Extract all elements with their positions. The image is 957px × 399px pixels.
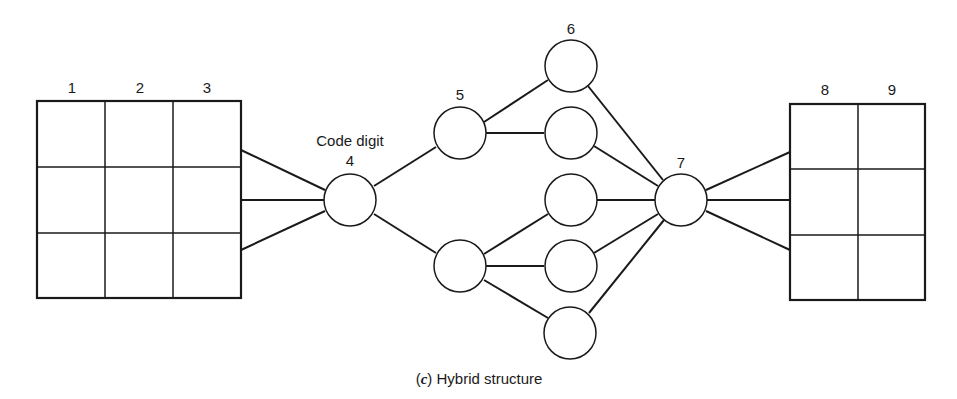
node-4-label: 4 bbox=[346, 152, 354, 169]
left-grid-label-3: 3 bbox=[203, 79, 211, 96]
node-lower-layer-2 bbox=[434, 240, 486, 292]
left-grid-label-1: 1 bbox=[68, 79, 76, 96]
caption-suffix: ) Hybrid structure bbox=[427, 370, 542, 387]
edges-lower-node-to-column bbox=[484, 214, 548, 318]
node-column-5 bbox=[544, 307, 596, 359]
node-4 bbox=[324, 174, 376, 226]
edges-left-grid-to-node-4 bbox=[241, 150, 325, 250]
node-column-4 bbox=[545, 240, 597, 292]
hybrid-structure-diagram: 1 2 3 Code digit 4 5 6 7 8 9 (c) Hybrid … bbox=[0, 0, 957, 399]
node-6 bbox=[545, 40, 597, 92]
edges-column-to-node-7 bbox=[588, 86, 664, 313]
code-digit-label: Code digit bbox=[316, 132, 384, 149]
node-column-2 bbox=[545, 107, 597, 159]
edges-node-7-to-right-grid bbox=[706, 152, 790, 250]
right-grid bbox=[790, 104, 925, 300]
right-grid-label-8: 8 bbox=[821, 81, 829, 98]
edges-node-5-to-column bbox=[484, 80, 548, 133]
left-grid bbox=[37, 101, 241, 298]
edges-node-4-to-layer-2 bbox=[374, 147, 436, 253]
node-5-label: 5 bbox=[456, 86, 464, 103]
node-5 bbox=[434, 107, 486, 159]
node-column-3 bbox=[545, 174, 597, 226]
node-7-label: 7 bbox=[677, 154, 685, 171]
right-grid-label-9: 9 bbox=[888, 81, 896, 98]
figure-caption: (c) Hybrid structure bbox=[416, 370, 543, 387]
left-grid-label-2: 2 bbox=[136, 79, 144, 96]
node-6-label: 6 bbox=[567, 20, 575, 37]
node-7 bbox=[655, 174, 707, 226]
